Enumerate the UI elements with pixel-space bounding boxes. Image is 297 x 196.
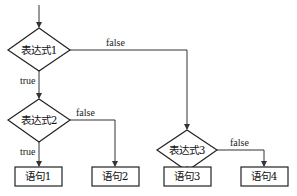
edge-d2-false-label: false <box>76 107 95 118</box>
decision-1-label: 表达式1 <box>21 44 58 56</box>
decision-2-label: 表达式2 <box>21 114 58 126</box>
flowchart: 表达式1 true false 表达式2 true false 表达式3 tru… <box>0 0 297 196</box>
statement-2-label: 语句2 <box>102 170 129 182</box>
decision-3-label: 表达式3 <box>169 144 206 156</box>
edge-d1-false-label: false <box>106 37 125 48</box>
edge-d1-true-label: true <box>20 75 36 86</box>
edge-d2-true-label: true <box>20 146 36 157</box>
edge-d3-s4 <box>217 150 264 166</box>
edge-d3-false-label: false <box>230 137 249 148</box>
edge-d2-s2 <box>70 120 115 166</box>
statement-3-label: 语句3 <box>174 170 201 182</box>
statement-1-label: 语句1 <box>25 170 52 182</box>
statement-4-label: 语句4 <box>251 170 278 182</box>
